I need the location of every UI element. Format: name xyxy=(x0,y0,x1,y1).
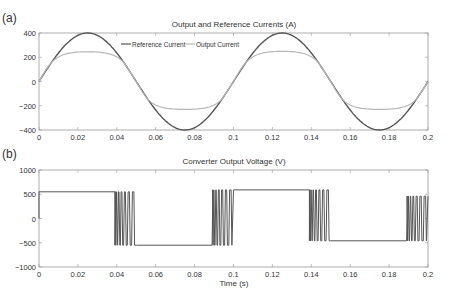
svg-text:0.02: 0.02 xyxy=(71,270,86,279)
svg-text:0.2: 0.2 xyxy=(423,270,433,279)
svg-text:0.16: 0.16 xyxy=(343,270,358,279)
svg-text:−200: −200 xyxy=(19,102,36,111)
svg-text:0.08: 0.08 xyxy=(187,270,202,279)
svg-text:200: 200 xyxy=(23,53,36,62)
svg-text:0: 0 xyxy=(37,133,41,142)
panel-a-title: Output and Reference Currents (A) xyxy=(172,20,297,29)
svg-text:0.06: 0.06 xyxy=(148,270,163,279)
svg-text:0.16: 0.16 xyxy=(343,133,358,142)
panel-b-axes xyxy=(39,170,428,267)
panel-a: (a) Output and Reference Currents (A) 00… xyxy=(2,11,433,142)
legend-ref-label: Reference Current xyxy=(132,41,186,48)
panel-b-label: (b) xyxy=(2,147,17,161)
legend: Reference Current Output Current xyxy=(121,41,239,49)
svg-text:0: 0 xyxy=(32,215,36,224)
svg-text:0: 0 xyxy=(32,78,36,87)
svg-text:0.08: 0.08 xyxy=(187,133,202,142)
svg-text:0.12: 0.12 xyxy=(265,133,280,142)
svg-text:0.14: 0.14 xyxy=(304,270,319,279)
svg-text:0.18: 0.18 xyxy=(382,133,397,142)
svg-text:0.04: 0.04 xyxy=(109,270,124,279)
svg-text:0.02: 0.02 xyxy=(71,133,86,142)
svg-text:0.2: 0.2 xyxy=(423,133,433,142)
svg-text:0.04: 0.04 xyxy=(109,133,124,142)
svg-text:0.14: 0.14 xyxy=(304,133,319,142)
svg-text:0.1: 0.1 xyxy=(228,133,238,142)
svg-text:0.1: 0.1 xyxy=(228,270,238,279)
x-axis-label: Time (s) xyxy=(219,279,248,288)
panel-b: (b) Converter Output Voltage (V) 00.020.… xyxy=(2,147,433,288)
svg-text:1000: 1000 xyxy=(19,166,36,175)
svg-text:−400: −400 xyxy=(19,126,36,135)
svg-text:−1000: −1000 xyxy=(15,263,36,272)
svg-text:0.06: 0.06 xyxy=(148,133,163,142)
svg-text:0.18: 0.18 xyxy=(382,270,397,279)
panel-b-title: Converter Output Voltage (V) xyxy=(182,157,286,166)
svg-text:0.12: 0.12 xyxy=(265,270,280,279)
svg-text:500: 500 xyxy=(23,190,36,199)
svg-text:400: 400 xyxy=(23,29,36,38)
svg-text:−500: −500 xyxy=(19,239,36,248)
panel-a-label: (a) xyxy=(2,11,17,25)
svg-text:0: 0 xyxy=(37,270,41,279)
figure: (a) Output and Reference Currents (A) 00… xyxy=(0,0,450,301)
legend-out-label: Output Current xyxy=(196,41,239,49)
